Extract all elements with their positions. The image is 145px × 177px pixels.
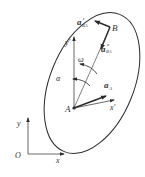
a-t-BA-vector (95, 21, 110, 27)
label-fixed-x: x (55, 156, 60, 165)
svg-text:n: n (107, 42, 110, 47)
label-origin: O (15, 151, 21, 160)
label-moving-x: x' (109, 103, 116, 112)
svg-text:BA: BA (82, 23, 88, 28)
label-a-n-BA: a n BA (101, 42, 112, 54)
svg-text:t: t (83, 16, 85, 21)
svg-text:BA: BA (106, 49, 112, 54)
label-alpha: α (56, 74, 61, 83)
label-moving-y: y' (64, 38, 71, 47)
label-B: B (112, 23, 118, 33)
label-omega: ω (78, 55, 84, 64)
label-fixed-y: y (16, 119, 21, 128)
omega-arc (80, 64, 97, 74)
label-A: A (64, 104, 71, 114)
alpha-arc (73, 79, 90, 86)
point-A-dot (72, 106, 75, 109)
diagram-canvas: A B y' x' ω α a A a t BA a n BA y x O (0, 0, 145, 177)
label-a-A: a A (104, 80, 113, 91)
svg-text:A: A (108, 86, 113, 91)
